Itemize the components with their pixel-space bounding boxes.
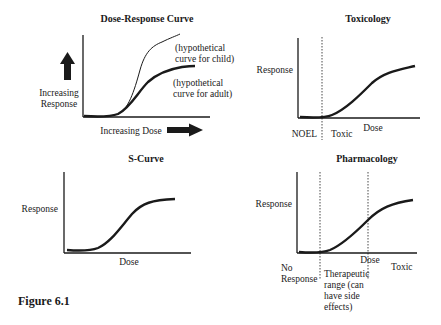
y-axis-label: Response	[257, 65, 293, 75]
no-response-label-line2: Response	[281, 274, 317, 284]
x-axis-label: Dose	[119, 257, 139, 267]
panel-title: Dose-Response Curve	[100, 13, 194, 24]
panel-s-curve: S-Curve Response Dose	[22, 153, 191, 267]
response-curve	[299, 200, 413, 253]
panel-pharmacology: Pharmacology Response Dose No Response T…	[256, 153, 417, 313]
therapeutic-label-line1: Therapeutic	[324, 269, 369, 279]
therapeutic-label-line3: have side	[324, 291, 360, 301]
x-axis-label: Increasing Dose	[100, 126, 161, 136]
figure-label: Figure 6.1	[18, 294, 70, 308]
toxic-label: Toxic	[331, 129, 353, 139]
panel-title: S-Curve	[128, 153, 164, 164]
right-arrow-icon	[167, 124, 203, 137]
adult-curve-label-line2: curve for adult)	[173, 89, 232, 100]
child-curve-label-line2: curve for child)	[175, 54, 234, 65]
child-curve-label-line1: (hypothetical	[175, 43, 225, 54]
x-axis-label: Dose	[363, 123, 383, 133]
x-axis-label: Dose	[360, 255, 380, 265]
response-curve	[300, 66, 415, 118]
panel-dose-response: Dose-Response Curve Increasing Response …	[39, 13, 234, 137]
panel-title: Toxicology	[345, 13, 391, 24]
panel-toxicology: Toxicology Response Dose NOEL Toxic	[257, 13, 420, 140]
panel-title: Pharmacology	[336, 153, 398, 164]
y-axis-label: Response	[22, 204, 58, 214]
no-response-label-line1: No	[281, 263, 293, 273]
toxic-label: Toxic	[391, 262, 413, 272]
child-curve	[84, 34, 180, 117]
adult-curve-label-line1: (hypothetical	[173, 78, 223, 89]
response-curve	[67, 199, 175, 251]
y-axis-label: Response	[256, 199, 292, 209]
therapeutic-label-line2: range (can	[324, 280, 364, 291]
up-arrow-icon	[60, 52, 75, 80]
figure-canvas: Dose-Response Curve Increasing Response …	[0, 0, 441, 325]
therapeutic-label-line4: effects)	[324, 302, 352, 313]
noel-label: NOEL	[292, 129, 318, 139]
y-axis-label-line1: Increasing	[39, 88, 79, 98]
y-axis-label-line2: Response	[41, 99, 77, 109]
